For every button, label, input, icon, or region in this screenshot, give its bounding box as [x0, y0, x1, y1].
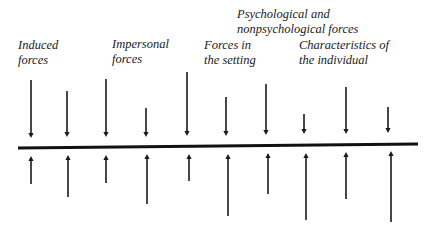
arrowhead-icon — [186, 154, 191, 159]
down-arrow-icon — [143, 108, 148, 137]
arrowhead-icon — [65, 155, 70, 160]
arrowhead-icon — [265, 153, 270, 158]
arrowhead-icon — [103, 155, 108, 160]
up-arrow-icon — [343, 152, 348, 199]
arrowhead-icon — [223, 131, 228, 136]
down-arrow-icon — [64, 91, 69, 137]
arrowhead-icon — [385, 128, 390, 133]
arrowhead-icon — [28, 156, 33, 161]
restraining-forces-group — [28, 72, 390, 138]
down-arrow-icon — [263, 84, 268, 135]
up-arrow-icon — [144, 154, 149, 204]
up-arrow-icon — [103, 155, 108, 183]
down-arrow-icon — [301, 114, 306, 134]
arrowhead-icon — [263, 130, 268, 135]
down-arrow-icon — [28, 80, 33, 138]
equilibrium-baseline — [18, 144, 418, 148]
down-arrow-icon — [103, 79, 108, 137]
arrowhead-icon — [184, 131, 189, 136]
arrowhead-icon — [225, 154, 230, 159]
arrowhead-icon — [64, 132, 69, 137]
up-arrow-icon — [388, 151, 393, 222]
arrowhead-icon — [143, 132, 148, 137]
up-arrow-icon — [225, 154, 230, 216]
up-arrow-icon — [65, 155, 70, 197]
up-arrow-icon — [186, 154, 191, 181]
up-arrow-icon — [265, 153, 270, 194]
arrowhead-icon — [343, 152, 348, 157]
arrowhead-icon — [301, 129, 306, 134]
arrowhead-icon — [388, 151, 393, 156]
arrowhead-icon — [28, 133, 33, 138]
arrowhead-icon — [144, 154, 149, 159]
force-field-diagram — [0, 0, 433, 234]
up-arrow-icon — [28, 156, 33, 184]
driving-forces-group — [28, 151, 393, 222]
down-arrow-icon — [223, 97, 228, 136]
arrowhead-icon — [103, 132, 108, 137]
arrowhead-icon — [303, 153, 308, 158]
down-arrow-icon — [184, 72, 189, 136]
down-arrow-icon — [385, 107, 390, 133]
up-arrow-icon — [303, 153, 308, 220]
down-arrow-icon — [343, 87, 348, 134]
arrowhead-icon — [343, 129, 348, 134]
